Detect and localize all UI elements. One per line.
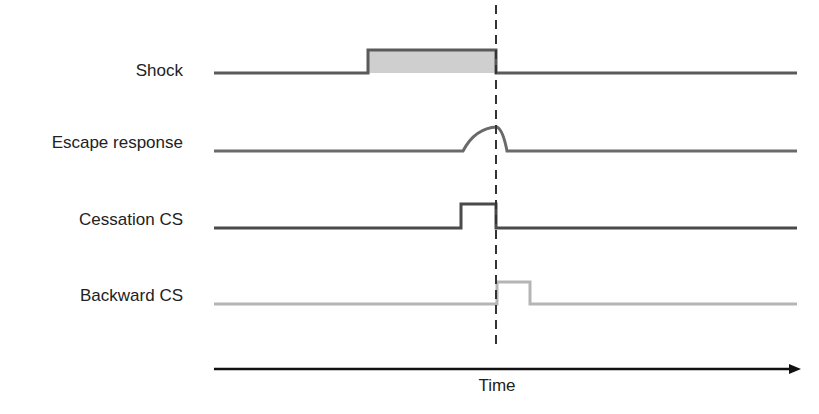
backward-cs-trace	[214, 282, 797, 304]
shock-fill	[368, 50, 496, 73]
time-axis-label: Time	[470, 376, 524, 396]
time-axis-arrow-icon	[789, 364, 801, 374]
cessation-cs-trace	[214, 204, 797, 228]
timing-diagram	[0, 0, 819, 414]
shock-trace	[214, 50, 797, 73]
escape-response-trace	[214, 127, 797, 151]
